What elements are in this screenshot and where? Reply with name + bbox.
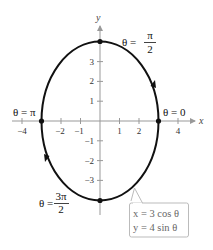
y-tick-label: −3 (84, 175, 94, 185)
y-tick-label: −2 (84, 156, 94, 166)
y-tick-label: 1 (90, 96, 95, 106)
parametric-ellipse-diagram: −4 −2 −1 1 2 4 3 2 1 −1 −2 −3 x y θ = π … (0, 0, 213, 250)
x-tick-label: 2 (137, 126, 142, 136)
svg-text:π: π (147, 29, 153, 41)
x-tick-label: −2 (55, 126, 65, 136)
x-tick-label: 1 (117, 126, 122, 136)
y-axis-label: y (95, 12, 101, 23)
svg-text:θ =: θ = (122, 36, 136, 48)
label-theta-pi: θ = π (13, 106, 36, 118)
label-theta-zero: θ = 0 (163, 106, 186, 118)
svg-text:2: 2 (147, 43, 153, 55)
equation-callout: x = 3 cos θ y = 4 sin θ (130, 188, 189, 237)
svg-text:2: 2 (58, 203, 64, 215)
x-axis-label: x (198, 115, 204, 126)
label-theta-3pi-over-2: θ = 3π 2 (39, 190, 69, 215)
svg-text:3π: 3π (55, 190, 67, 202)
equation-x: x = 3 cos θ (133, 208, 179, 219)
point-theta-zero (156, 118, 161, 123)
point-theta-3pi-over-2 (97, 198, 102, 203)
y-tick-label: 3 (90, 57, 95, 67)
y-tick-label: 2 (90, 76, 95, 86)
equation-y: y = 4 sin θ (133, 222, 177, 233)
x-tick-label: −4 (17, 126, 27, 136)
x-tick-label: 4 (176, 126, 181, 136)
svg-text:θ =: θ = (39, 197, 53, 209)
x-tick-label: −1 (74, 126, 84, 136)
y-tick-label: −1 (84, 136, 94, 146)
point-theta-pi (39, 118, 44, 123)
point-theta-pi-over-2 (97, 39, 102, 44)
